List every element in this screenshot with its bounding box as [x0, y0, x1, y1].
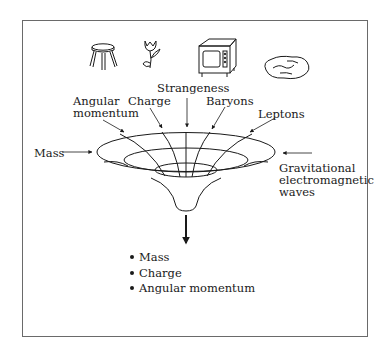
output-item: Angular momentum	[128, 281, 255, 297]
waves-label-3: waves	[279, 186, 315, 198]
rock-icon	[265, 56, 309, 78]
output-item: Mass	[128, 250, 255, 266]
bullet-icon	[130, 255, 134, 259]
leptons-label: Leptons	[258, 108, 305, 120]
baryons-arrow	[212, 107, 225, 129]
flower-icon	[143, 41, 160, 68]
mass-label: Mass	[34, 147, 64, 159]
charge-label: Charge	[128, 95, 171, 107]
output-item: Charge	[128, 266, 255, 282]
charge-arrow	[150, 108, 162, 128]
microwave-icon	[199, 39, 236, 77]
bullet-icon	[130, 271, 134, 275]
bullet-icon	[130, 286, 134, 290]
black-hole-funnel	[97, 132, 275, 211]
angular-momentum-label-2: momentum	[73, 107, 139, 119]
angular-momentum-arrow	[103, 120, 124, 132]
stool-icon	[90, 44, 117, 70]
baryons-label: Baryons	[206, 95, 254, 107]
output-properties-list: Mass Charge Angular momentum	[128, 250, 255, 297]
strangeness-label: Strangeness	[157, 82, 229, 94]
